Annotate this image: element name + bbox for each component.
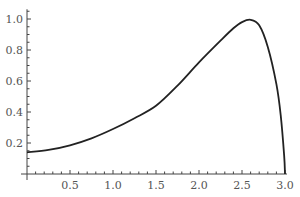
x-tick-label: 0.5	[61, 179, 79, 192]
y-tick-label: 0.8	[6, 44, 24, 57]
y-tick-label: 0.4	[6, 106, 24, 119]
x-tick-label: 2.5	[233, 179, 251, 192]
y-tick-label: 1.0	[6, 13, 24, 26]
x-tick-label: 3.0	[276, 179, 294, 192]
y-axis: 0.20.40.60.81.0	[6, 9, 32, 180]
x-tick-label: 2.0	[190, 179, 208, 192]
line-chart: 0.20.40.60.81.0 0.51.01.52.02.53.0	[0, 0, 300, 197]
plot-area	[27, 20, 285, 174]
y-tick-label: 0.6	[6, 75, 24, 88]
x-axis: 0.51.01.52.02.53.0	[21, 170, 294, 192]
x-tick-label: 1.5	[147, 179, 165, 192]
y-tick-label: 0.2	[6, 137, 24, 150]
x-tick-label: 1.0	[104, 179, 122, 192]
data-curve	[27, 20, 285, 174]
